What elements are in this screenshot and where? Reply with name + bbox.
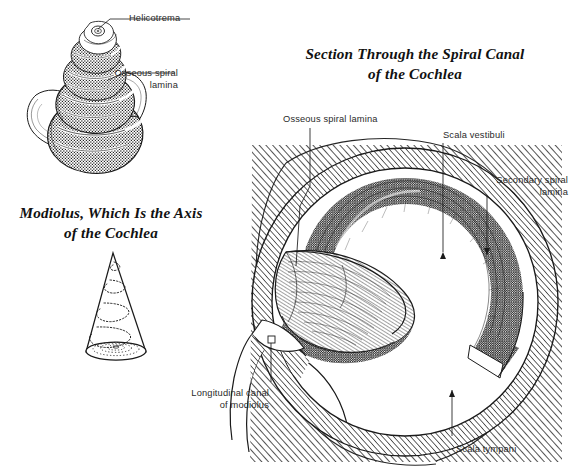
label-scala-tympani: Scala tympani <box>456 443 516 455</box>
label-osseous-spiral-lamina: Osseous spiral lamina <box>283 113 378 125</box>
modiolus-figure-title: Modiolus, Which Is the Axis of the Cochl… <box>0 203 222 243</box>
label-longitudinal-canal-of-modiolus: Longitudinal canal of modiolus <box>150 387 269 411</box>
section-figure-title: Section Through the Spiral Canal of the … <box>275 44 555 84</box>
label-helicotrema: Helicotrema <box>129 12 180 24</box>
anatomy-plate: Section Through the Spiral Canal of the … <box>0 0 570 469</box>
cochlea-shell-figure <box>27 19 190 173</box>
label-secondary-spiral-lamina: Secondary spiral lamina <box>420 174 568 198</box>
label-osseous-spiral-lamina-shell: Osseous spiral lamina <box>60 67 178 91</box>
label-scala-vestibuli: Scala vestibuli <box>443 129 505 141</box>
modiolus-figure <box>86 253 146 360</box>
longitudinal-canal-marker <box>268 336 275 343</box>
